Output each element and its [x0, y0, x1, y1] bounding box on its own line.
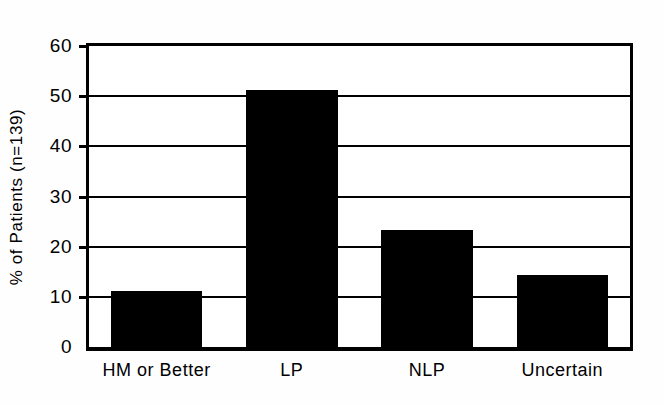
gridline-30 — [89, 196, 630, 198]
x-tick-label-lp: LP — [224, 361, 359, 379]
bar-lp — [246, 90, 337, 347]
y-tick-label-20: 20 — [12, 237, 72, 256]
bar-hm-or-better — [111, 291, 202, 347]
bar-uncertain — [517, 275, 608, 347]
plot-area — [86, 43, 633, 351]
y-tick-label-0: 0 — [12, 337, 72, 356]
gridline-50 — [89, 95, 630, 97]
bar-nlp — [381, 230, 472, 347]
x-tick-label-nlp: NLP — [360, 361, 495, 379]
chart-figure: % of Patients (n=139) 0102030405060 HM o… — [0, 0, 663, 405]
y-tick-label-30: 30 — [12, 187, 72, 206]
x-tick-label-uncertain: Uncertain — [495, 361, 630, 379]
gridline-40 — [89, 145, 630, 147]
y-tick-label-60: 60 — [12, 36, 72, 55]
x-tick-label-hm-or-better: HM or Better — [89, 361, 224, 379]
y-tick-label-40: 40 — [12, 136, 72, 155]
plot-inner — [89, 46, 630, 347]
y-tick-label-50: 50 — [12, 86, 72, 105]
gridline-20 — [89, 246, 630, 248]
y-tick-label-10: 10 — [12, 287, 72, 306]
